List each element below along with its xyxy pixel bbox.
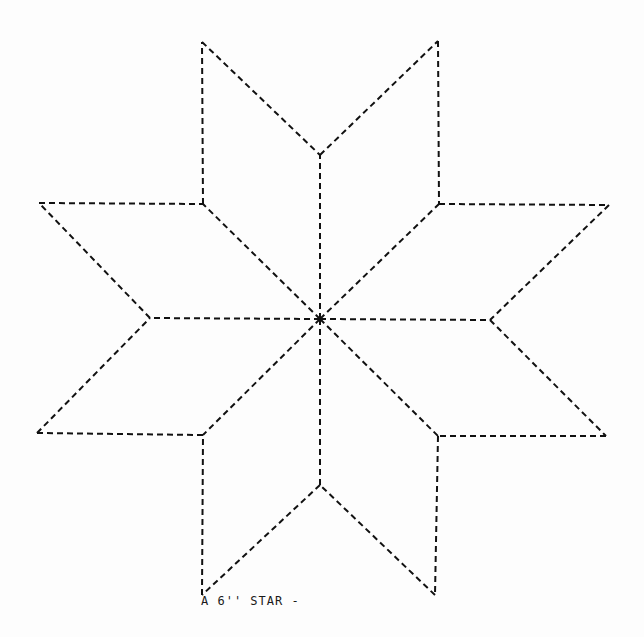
eight-point-star-diagram <box>0 0 644 637</box>
star-spoke <box>203 319 320 435</box>
star-edge <box>202 485 320 595</box>
star-spoke <box>320 319 490 320</box>
star-edge <box>439 204 609 205</box>
star-edge <box>39 203 150 318</box>
pattern-page: A 6'' STAR - <box>0 0 644 637</box>
star-edge <box>320 41 438 155</box>
star-edge <box>320 485 435 595</box>
star-edge <box>202 435 203 595</box>
pattern-caption: A 6'' STAR - <box>201 594 300 608</box>
star-spoke <box>320 319 438 436</box>
star-edge <box>438 41 439 204</box>
star-spoke <box>150 318 320 319</box>
star-edge <box>435 436 438 595</box>
star-edge <box>202 42 203 204</box>
star-edge <box>490 205 609 320</box>
star-edge <box>202 42 320 155</box>
star-edge <box>37 318 150 433</box>
star-spoke <box>320 204 439 319</box>
star-edge <box>490 320 606 436</box>
star-edge <box>39 203 203 204</box>
star-spoke <box>203 204 320 319</box>
star-edge <box>37 433 203 435</box>
